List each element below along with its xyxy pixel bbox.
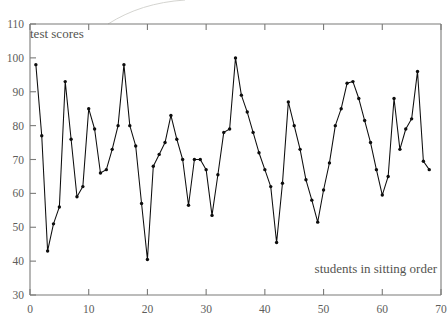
data-point <box>269 185 272 188</box>
data-point <box>75 195 78 198</box>
score-data-markers <box>34 56 431 261</box>
data-point <box>105 168 108 171</box>
data-point <box>222 131 225 134</box>
data-point <box>187 204 190 207</box>
y-tick-label: 50 <box>13 221 25 233</box>
data-point <box>263 168 266 171</box>
data-point <box>428 168 431 171</box>
axis-ticks <box>30 24 441 295</box>
data-point <box>281 182 284 185</box>
y-axis-caption: test scores <box>30 26 84 41</box>
scan-artifact <box>108 0 185 24</box>
x-tick-label: 0 <box>27 303 33 315</box>
data-point <box>228 127 231 130</box>
data-point <box>334 124 337 127</box>
x-tick-label: 10 <box>83 303 95 315</box>
data-point <box>392 97 395 100</box>
data-point <box>246 110 249 113</box>
y-tick-label: 30 <box>13 289 25 301</box>
x-tick-label: 30 <box>200 303 212 315</box>
data-point <box>69 137 72 140</box>
data-point <box>234 56 237 59</box>
data-point <box>64 80 67 83</box>
data-point <box>122 63 125 66</box>
data-point <box>345 82 348 85</box>
data-point <box>116 124 119 127</box>
x-tick-label: 20 <box>142 303 154 315</box>
data-point <box>363 119 366 122</box>
data-point <box>204 168 207 171</box>
data-point <box>293 124 296 127</box>
data-point <box>40 134 43 137</box>
data-point <box>422 159 425 162</box>
data-point <box>210 214 213 217</box>
data-point <box>216 173 219 176</box>
data-point <box>298 148 301 151</box>
data-point <box>111 148 114 151</box>
x-tick-label: 40 <box>259 303 271 315</box>
data-point <box>251 131 254 134</box>
data-point <box>287 100 290 103</box>
data-point <box>34 63 37 66</box>
y-tick-label: 90 <box>13 86 25 98</box>
data-point <box>275 241 278 244</box>
data-point <box>157 153 160 156</box>
data-point <box>310 198 313 201</box>
y-tick-label: 60 <box>13 187 25 199</box>
data-point <box>322 188 325 191</box>
data-point <box>357 97 360 100</box>
data-point <box>398 148 401 151</box>
y-tick-label: 40 <box>13 255 25 267</box>
test-scores-line-chart: 30405060708090100110010203040506070 test… <box>0 0 448 324</box>
data-point <box>416 70 419 73</box>
y-tick-label: 100 <box>7 52 25 64</box>
y-tick-label: 80 <box>13 120 25 132</box>
data-point <box>163 141 166 144</box>
data-point <box>175 137 178 140</box>
x-axis-caption: students in sitting order <box>315 261 438 276</box>
data-point <box>46 249 49 252</box>
chart-figure: 30405060708090100110010203040506070 test… <box>0 0 448 324</box>
data-point <box>140 202 143 205</box>
data-point <box>58 205 61 208</box>
data-point <box>328 161 331 164</box>
data-point <box>134 144 137 147</box>
data-point <box>87 107 90 110</box>
data-point <box>257 151 260 154</box>
data-point <box>375 168 378 171</box>
data-point <box>381 193 384 196</box>
data-point <box>181 158 184 161</box>
x-tick-label: 50 <box>318 303 330 315</box>
x-tick-label: 60 <box>377 303 389 315</box>
data-point <box>52 222 55 225</box>
data-point <box>351 80 354 83</box>
data-point <box>199 158 202 161</box>
chart-axes <box>30 24 441 295</box>
data-point <box>386 175 389 178</box>
data-point <box>146 258 149 261</box>
data-point <box>169 114 172 117</box>
data-point <box>339 107 342 110</box>
y-tick-label: 70 <box>13 154 25 166</box>
data-point <box>152 165 155 168</box>
data-point <box>240 93 243 96</box>
data-point <box>99 171 102 174</box>
data-point <box>128 124 131 127</box>
data-point <box>316 220 319 223</box>
data-point <box>81 185 84 188</box>
data-point <box>404 127 407 130</box>
data-point <box>93 127 96 130</box>
y-tick-label: 110 <box>7 18 24 30</box>
x-tick-label: 70 <box>435 303 447 315</box>
data-point <box>304 178 307 181</box>
data-point <box>369 141 372 144</box>
score-series-line <box>36 58 429 260</box>
data-point <box>410 117 413 120</box>
data-point <box>193 158 196 161</box>
